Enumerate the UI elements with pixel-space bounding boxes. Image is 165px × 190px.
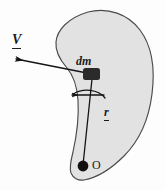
origin-label-text: O	[92, 158, 101, 172]
mass-element-marker	[83, 68, 100, 80]
diagram-canvas	[0, 0, 165, 190]
origin-label: O	[92, 159, 101, 171]
mass-element-label: dm	[76, 55, 91, 67]
radius-label-text: r	[104, 105, 109, 121]
physics-diagram-figure: V dm r O	[0, 0, 165, 190]
velocity-label-text: V	[12, 32, 21, 49]
velocity-vector-label: V	[12, 33, 21, 47]
origin-point-marker	[78, 161, 89, 172]
radius-vector-label: r	[104, 106, 109, 118]
mass-element-label-text: dm	[76, 54, 91, 68]
